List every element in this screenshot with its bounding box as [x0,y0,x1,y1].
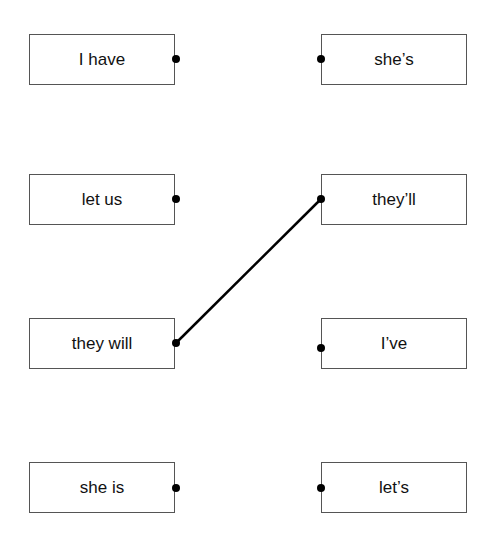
left-item-2[interactable]: they will [29,318,175,369]
right-item-0[interactable]: she’s [321,34,467,85]
right-item-1[interactable]: they’ll [321,174,467,225]
item-label: she’s [374,50,413,70]
connector-dot[interactable] [317,195,325,203]
connector-dot[interactable] [172,55,180,63]
connection-line [176,199,321,343]
item-label: I have [79,50,125,70]
right-item-2[interactable]: I’ve [321,318,467,369]
left-item-0[interactable]: I have [29,34,175,85]
right-item-3[interactable]: let’s [321,462,467,513]
item-label: they will [72,334,132,354]
connector-dot[interactable] [172,484,180,492]
connector-dot[interactable] [172,195,180,203]
item-label: she is [80,478,124,498]
left-item-3[interactable]: she is [29,462,175,513]
connector-dot[interactable] [317,484,325,492]
item-label: I’ve [381,334,407,354]
item-label: they’ll [372,190,415,210]
item-label: let us [82,190,123,210]
connector-dot[interactable] [172,339,180,347]
connector-dot[interactable] [317,344,325,352]
connector-dot[interactable] [317,55,325,63]
item-label: let’s [379,478,409,498]
left-item-1[interactable]: let us [29,174,175,225]
